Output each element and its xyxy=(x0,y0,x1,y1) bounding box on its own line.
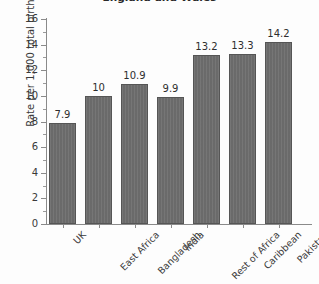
x-tick xyxy=(279,225,280,228)
y-tick-6 xyxy=(41,147,46,148)
y-tick-label-10: 10 xyxy=(25,91,38,101)
x-axis-line xyxy=(46,224,312,225)
x-axis-label: UK xyxy=(70,229,87,246)
y-tick-label-16: 16 xyxy=(25,14,38,24)
y-tick-label-2: 2 xyxy=(32,193,38,203)
y-minor-tick xyxy=(43,83,46,84)
bar xyxy=(157,97,184,224)
y-tick-0 xyxy=(41,224,46,225)
y-tick-label-8: 8 xyxy=(32,117,38,127)
bar xyxy=(49,123,76,224)
bar xyxy=(121,84,148,224)
y-tick-10 xyxy=(41,96,46,97)
y-tick-8 xyxy=(41,122,46,123)
chart-title: England and Wales xyxy=(0,0,319,3)
bar-chart: England and Wales Rate per 1,000 total b… xyxy=(0,0,319,284)
x-axis-label: India xyxy=(181,229,205,253)
x-axis-label-text: India xyxy=(181,229,205,253)
bar xyxy=(193,55,220,224)
y-tick-16 xyxy=(41,19,46,20)
y-minor-tick xyxy=(43,211,46,212)
y-minor-tick xyxy=(43,160,46,161)
y-minor-tick xyxy=(43,57,46,58)
bar-value-label: 7.9 xyxy=(39,110,87,120)
y-minor-tick xyxy=(43,134,46,135)
y-axis-line xyxy=(46,18,47,225)
y-tick-2 xyxy=(41,198,46,199)
y-tick-label-6: 6 xyxy=(32,142,38,152)
bar-value-label: 10.9 xyxy=(111,71,159,81)
y-tick-12 xyxy=(41,70,46,71)
x-axis-label-text: UK xyxy=(70,229,87,246)
bar-value-label: 14.2 xyxy=(255,29,303,39)
x-tick xyxy=(63,225,64,228)
y-tick-4 xyxy=(41,173,46,174)
bar xyxy=(265,42,292,224)
y-tick-label-14: 14 xyxy=(25,40,38,50)
x-tick xyxy=(99,225,100,228)
y-tick-label-4: 4 xyxy=(32,168,38,178)
x-axis-label: East Africa xyxy=(117,229,161,273)
y-tick-14 xyxy=(41,45,46,46)
bar xyxy=(229,54,256,224)
x-tick xyxy=(243,225,244,228)
bar-value-label: 10 xyxy=(75,83,123,93)
y-minor-tick xyxy=(43,186,46,187)
y-tick-label-12: 12 xyxy=(25,65,38,75)
bar-value-label: 13.3 xyxy=(219,41,267,51)
bar-value-label: 9.9 xyxy=(147,84,195,94)
x-tick xyxy=(135,225,136,228)
x-axis-label-text: East Africa xyxy=(117,229,161,273)
x-tick xyxy=(171,225,172,228)
bar xyxy=(85,96,112,224)
x-tick xyxy=(207,225,208,228)
y-minor-tick xyxy=(43,32,46,33)
y-tick-label-0: 0 xyxy=(32,219,38,229)
